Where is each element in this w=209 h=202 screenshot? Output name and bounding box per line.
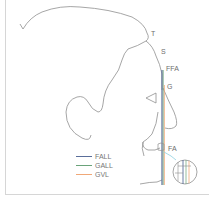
legend-item-gvl: GVL bbox=[76, 170, 113, 179]
legend-item-gall: GALL bbox=[76, 161, 113, 170]
legend-swatch-gvl bbox=[76, 174, 92, 176]
inset-leader bbox=[164, 152, 176, 160]
neck-line bbox=[140, 180, 162, 184]
landmark-FA: FA bbox=[168, 145, 177, 152]
legend-swatch-gall bbox=[76, 165, 92, 167]
eye bbox=[146, 93, 156, 103]
hairline bbox=[66, 41, 146, 139]
nose bbox=[163, 88, 177, 129]
legend-item-fall: FALL bbox=[76, 152, 113, 161]
landmark-T: T bbox=[151, 30, 155, 37]
legend-label-gall: GALL bbox=[95, 162, 113, 169]
forehead-profile bbox=[146, 41, 162, 90]
legend-swatch-fall bbox=[76, 156, 92, 158]
legend-label-gvl: GVL bbox=[95, 171, 109, 178]
landmark-FFA: FFA bbox=[166, 65, 179, 72]
landmark-G: G bbox=[167, 83, 172, 90]
head-outline bbox=[20, 7, 148, 41]
cheek-line bbox=[143, 112, 160, 150]
legend: FALL GALL GVL bbox=[76, 152, 113, 179]
legend-label-fall: FALL bbox=[95, 153, 111, 160]
landmark-S: S bbox=[161, 48, 166, 55]
inset-magnifier bbox=[173, 160, 197, 184]
